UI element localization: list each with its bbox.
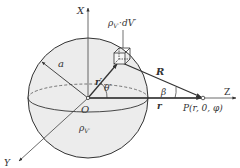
r-label: r — [157, 101, 163, 111]
radius-label: a — [58, 58, 64, 69]
charge-element-label: ρV′·dV′ — [107, 18, 136, 29]
theta-label: θ′ — [104, 83, 111, 93]
origin-label: O — [81, 104, 89, 115]
R-label: R — [155, 66, 164, 77]
charged-sphere-diagram: X Z Y O a ρV′·dV′ ρV′ r′ θ′ R β r P(r, 0… — [0, 0, 240, 168]
origin-marker — [86, 96, 89, 99]
beta-label: β — [160, 87, 166, 97]
y-axis-label: Y — [4, 158, 11, 168]
z-axis-label: Z — [224, 87, 230, 97]
x-axis-label: X — [76, 5, 85, 16]
rho-subscript: V′ — [84, 127, 90, 134]
field-point-marker — [201, 96, 205, 100]
field-point-label: P(r, 0, φ) — [182, 103, 223, 113]
r-prime-label: r′ — [95, 77, 103, 87]
beta-arc — [175, 87, 176, 98]
dV-label: dV′ — [122, 18, 136, 28]
